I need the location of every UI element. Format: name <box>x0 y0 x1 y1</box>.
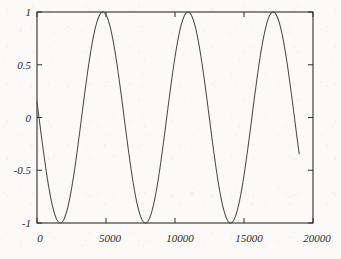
y-tick-label: 0 <box>26 112 32 124</box>
line-chart: 1 0.5 0 -0.5 -1 0 5000 10000 15000 20000 <box>0 0 341 259</box>
x-tick-label: 10000 <box>166 232 194 244</box>
x-tick-label: 20000 <box>303 232 331 244</box>
x-tick-label: 0 <box>37 232 43 244</box>
plot-frame <box>37 12 313 223</box>
y-tick-label: 1 <box>26 6 32 18</box>
x-tick-label: 15000 <box>235 232 263 244</box>
x-tick-label: 5000 <box>99 232 122 244</box>
y-tick-label: -0.5 <box>14 164 32 176</box>
x-axis-ticks <box>37 12 313 223</box>
data-series-line <box>37 12 299 223</box>
y-axis-ticks <box>37 12 313 223</box>
y-tick-label: 0.5 <box>17 59 31 71</box>
y-tick-label: -1 <box>22 217 31 229</box>
chart-container: 1 0.5 0 -0.5 -1 0 5000 10000 15000 20000 <box>0 0 341 259</box>
